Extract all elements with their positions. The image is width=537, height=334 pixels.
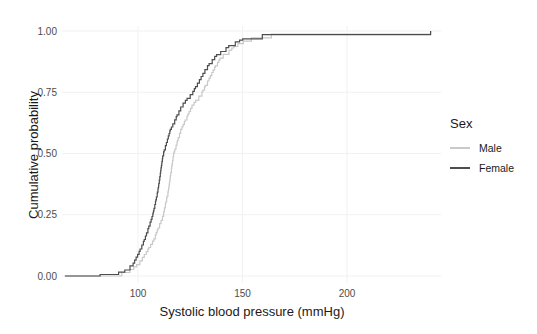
legend-item-male: Male [450, 138, 514, 158]
legend-label-female: Female [479, 162, 514, 174]
y-tick-label: 0.75 [38, 87, 58, 98]
male-line-swatch [450, 147, 470, 149]
female-line-swatch [450, 167, 470, 169]
ecdf-chart-figure: 1001502000.000.250.500.751.00 Cumulative… [0, 0, 537, 334]
x-tick-label: 150 [234, 288, 251, 299]
y-tick-label: 0.50 [38, 148, 58, 159]
y-tick-label: 0.00 [38, 271, 58, 282]
legend-title: Sex [450, 116, 514, 131]
x-tick-label: 200 [339, 288, 356, 299]
legend-item-female: Female [450, 158, 514, 178]
x-axis-title: Systolic blood pressure (mmHg) [160, 304, 345, 319]
y-tick-label: 1.00 [38, 26, 58, 37]
x-tick-label: 100 [130, 288, 147, 299]
y-axis-title: Cumulative probability [26, 91, 41, 219]
legend-label-male: Male [479, 142, 502, 154]
legend: Sex Male Female [450, 116, 514, 178]
y-tick-label: 0.25 [38, 209, 58, 220]
